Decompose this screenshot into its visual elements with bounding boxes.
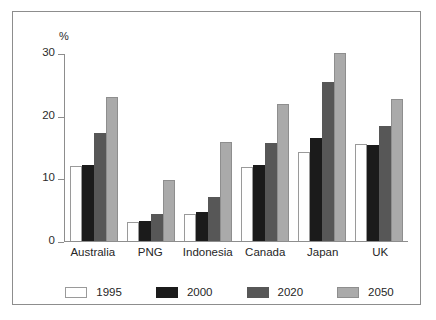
bar-png-2050[interactable] bbox=[163, 180, 175, 241]
x-axis-label-indonesia: Indonesia bbox=[179, 246, 237, 258]
bar-japan-2050[interactable] bbox=[334, 53, 346, 241]
y-axis-unit-label: % bbox=[59, 30, 69, 42]
bar-group bbox=[351, 53, 408, 241]
bar-australia-2050[interactable] bbox=[106, 97, 118, 241]
bar-australia-2000[interactable] bbox=[82, 165, 94, 241]
bar-uk-2050[interactable] bbox=[391, 99, 403, 241]
bar-uk-1995[interactable] bbox=[355, 144, 367, 241]
bar-canada-2020[interactable] bbox=[265, 143, 277, 241]
legend-label-2000: 2000 bbox=[187, 286, 213, 298]
bar-group-bars bbox=[127, 53, 175, 241]
chart-frame: % 0102030 AustraliaPNGIndonesiaCanadaJap… bbox=[12, 11, 421, 305]
bar-group bbox=[122, 53, 179, 241]
bar-japan-2020[interactable] bbox=[322, 82, 334, 241]
y-axis-tick-mark bbox=[58, 242, 64, 243]
plot-area: 0102030 bbox=[64, 54, 408, 242]
legend-swatch-2000 bbox=[156, 287, 178, 298]
y-axis-tick-mark bbox=[58, 179, 64, 180]
bar-groups bbox=[65, 53, 408, 241]
x-axis-label-japan: Japan bbox=[294, 246, 352, 258]
bar-group-bars bbox=[241, 53, 289, 241]
bar-group-bars bbox=[355, 53, 403, 241]
bar-australia-2020[interactable] bbox=[94, 133, 106, 241]
x-axis-category-labels: AustraliaPNGIndonesiaCanadaJapanUK bbox=[64, 246, 409, 258]
bar-canada-2050[interactable] bbox=[277, 104, 289, 241]
x-axis-label-canada: Canada bbox=[237, 246, 295, 258]
bar-group bbox=[294, 53, 351, 241]
bar-canada-1995[interactable] bbox=[241, 167, 253, 241]
legend-swatch-2050 bbox=[337, 287, 359, 298]
x-axis-label-australia: Australia bbox=[64, 246, 122, 258]
x-axis-line bbox=[64, 241, 408, 242]
bar-uk-2000[interactable] bbox=[367, 145, 379, 241]
legend-item-1995[interactable]: 1995 bbox=[65, 286, 122, 298]
chart-legend: 1995200020202050 bbox=[25, 278, 434, 306]
bar-indonesia-2000[interactable] bbox=[196, 212, 208, 241]
bar-uk-2020[interactable] bbox=[379, 126, 391, 241]
bar-japan-2000[interactable] bbox=[310, 138, 322, 241]
legend-label-2050: 2050 bbox=[368, 286, 394, 298]
bar-group bbox=[237, 53, 294, 241]
bar-group-bars bbox=[298, 53, 346, 241]
bar-australia-1995[interactable] bbox=[70, 166, 82, 241]
x-axis-label-uk: UK bbox=[352, 246, 410, 258]
bar-japan-1995[interactable] bbox=[298, 152, 310, 241]
x-axis-label-png: PNG bbox=[122, 246, 180, 258]
bar-group-bars bbox=[70, 53, 118, 241]
legend-label-1995: 1995 bbox=[96, 286, 122, 298]
bar-png-1995[interactable] bbox=[127, 222, 139, 241]
bar-canada-2000[interactable] bbox=[253, 165, 265, 241]
bar-indonesia-2050[interactable] bbox=[220, 142, 232, 241]
bar-group-bars bbox=[184, 53, 232, 241]
bar-group bbox=[65, 53, 122, 241]
y-axis-tick-mark bbox=[58, 54, 64, 55]
y-axis-tick-mark bbox=[58, 117, 64, 118]
bar-png-2000[interactable] bbox=[139, 221, 151, 241]
legend-label-2020: 2020 bbox=[278, 286, 304, 298]
legend-swatch-1995 bbox=[65, 287, 87, 298]
y-axis-tick-label: 10 bbox=[42, 171, 55, 183]
legend-swatch-2020 bbox=[247, 287, 269, 298]
bar-group bbox=[179, 53, 236, 241]
legend-item-2050[interactable]: 2050 bbox=[337, 286, 394, 298]
y-axis-tick-label: 20 bbox=[42, 109, 55, 121]
legend-item-2000[interactable]: 2000 bbox=[156, 286, 213, 298]
bar-indonesia-1995[interactable] bbox=[184, 214, 196, 241]
bar-indonesia-2020[interactable] bbox=[208, 197, 220, 241]
bar-png-2020[interactable] bbox=[151, 214, 163, 241]
legend-item-2020[interactable]: 2020 bbox=[247, 286, 304, 298]
y-axis-tick-label: 30 bbox=[42, 46, 55, 58]
y-axis-tick-label: 0 bbox=[49, 234, 55, 246]
